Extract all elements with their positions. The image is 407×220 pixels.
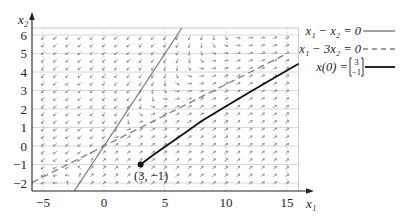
direction-arrow-icon (90, 136, 93, 139)
axes (29, 12, 314, 194)
direction-arrow-icon (176, 66, 178, 70)
direction-arrow-icon (90, 97, 93, 100)
direction-arrow-icon (115, 105, 118, 108)
direction-arrow-icon (249, 98, 253, 100)
direction-arrow-icon (78, 128, 81, 131)
direction-arrow-icon (273, 159, 276, 162)
direction-arrow-icon (114, 136, 118, 138)
direction-arrow-icon (151, 113, 155, 115)
direction-arrow-icon (248, 59, 252, 61)
direction-arrow-icon (41, 159, 45, 161)
direction-arrow-icon (151, 159, 154, 162)
line-x1-minus-3x2 (32, 55, 283, 182)
y-tick-label: 0 (21, 139, 28, 154)
direction-arrow-icon (54, 75, 57, 78)
direction-arrow-icon (54, 82, 57, 85)
direction-arrow-icon (152, 89, 154, 93)
direction-arrow-icon (249, 151, 252, 154)
direction-arrow-icon (236, 105, 240, 107)
y-tick-label: −1 (13, 157, 27, 172)
direction-arrow-icon (212, 105, 216, 107)
direction-arrow-icon (236, 151, 239, 154)
direction-arrow-icon (152, 97, 154, 101)
direction-arrow-icon (164, 90, 167, 93)
direction-arrow-icon (188, 166, 191, 169)
direction-arrow-icon (127, 174, 130, 177)
vector-right-bracket (361, 58, 363, 76)
y-tick-label: −2 (13, 176, 27, 191)
direction-arrow-icon (65, 174, 69, 176)
direction-arrow-icon (273, 113, 277, 116)
direction-arrow-icon (151, 59, 154, 63)
direction-arrow-icon (199, 67, 203, 69)
direction-arrow-icon (175, 113, 179, 115)
direction-arrow-icon (127, 159, 130, 162)
direction-arrow-icon (212, 98, 216, 100)
y-tick-label: 1 (21, 120, 28, 135)
chart-container: −2−10123456−5051015 x₂ x₁ (3, −1) x₁ − x… (0, 0, 407, 220)
direction-arrow-icon (54, 113, 57, 116)
direction-arrow-icon (127, 44, 130, 47)
direction-arrow-icon (41, 128, 44, 131)
direction-arrow-icon (236, 37, 240, 39)
direction-arrow-icon (200, 43, 202, 47)
direction-arrow-icon (200, 136, 204, 139)
direction-arrow-icon (249, 136, 253, 139)
direction-arrow-icon (53, 136, 56, 139)
direction-arrow-icon (188, 43, 190, 47)
direction-arrow-icon (261, 151, 264, 154)
direction-arrow-icon (200, 151, 203, 154)
direction-arrow-icon (90, 105, 93, 108)
direction-arrow-icon (115, 67, 118, 70)
direction-arrow-icon (139, 36, 142, 39)
direction-arrow-icon (139, 104, 141, 108)
direction-arrow-icon (199, 75, 203, 77)
direction-arrow-icon (90, 67, 93, 70)
direction-arrow-icon (273, 128, 277, 131)
direction-arrow-icon (212, 159, 215, 162)
direction-arrow-icon (41, 136, 44, 139)
direction-arrow-icon (127, 51, 130, 54)
direction-arrow-icon (90, 52, 93, 55)
direction-arrow-icon (41, 82, 44, 85)
x-axis-arrow-icon (306, 188, 314, 194)
vector-top-entry: 3 (354, 57, 358, 67)
y-tick-label: 5 (21, 46, 28, 61)
direction-arrow-icon (261, 121, 265, 124)
x-tick-label: 5 (162, 195, 169, 210)
direction-arrow-icon (175, 128, 179, 130)
direction-arrow-icon (151, 106, 155, 108)
direction-arrow-icon (102, 97, 105, 100)
direction-arrow-icon (212, 75, 216, 77)
direction-arrow-icon (66, 67, 69, 70)
direction-arrow-icon (164, 59, 166, 63)
direction-arrow-icon (115, 113, 118, 116)
direction-arrow-icon (236, 159, 239, 162)
direction-arrow-icon (90, 174, 93, 177)
direction-arrow-icon (273, 105, 277, 107)
direction-arrow-icon (126, 128, 130, 130)
direction-arrow-icon (249, 82, 253, 84)
direction-arrow-icon (213, 36, 215, 40)
direction-arrow-icon (151, 128, 155, 130)
direction-arrow-icon (260, 37, 264, 39)
direction-arrow-icon (78, 151, 82, 153)
direction-arrow-icon (213, 44, 215, 48)
direction-arrow-icon (249, 121, 253, 124)
direction-arrow-icon (224, 36, 227, 39)
direction-arrow-icon (248, 44, 252, 46)
direction-arrow-icon (66, 128, 69, 131)
direction-arrow-icon (66, 82, 69, 85)
direction-arrow-icon (188, 59, 190, 63)
x-tick-label: −5 (36, 195, 50, 210)
direction-arrow-icon (66, 75, 69, 78)
direction-arrow-icon (66, 151, 70, 154)
direction-arrow-icon (163, 136, 167, 139)
legend-label-line3: x(0) = (315, 60, 348, 74)
direction-arrow-icon (115, 97, 118, 100)
direction-arrow-icon (200, 159, 203, 162)
direction-arrow-icon (66, 159, 70, 161)
direction-arrow-icon (53, 167, 57, 169)
direction-arrow-icon (90, 36, 93, 39)
direction-arrow-icon (212, 67, 216, 69)
